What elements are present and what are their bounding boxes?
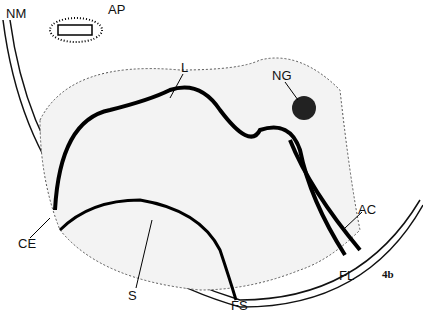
- label-ap: AP: [108, 2, 125, 17]
- label-ng: NG: [272, 68, 292, 83]
- label-l: L: [181, 60, 188, 75]
- figure-number: 4b: [382, 268, 394, 280]
- label-ac: AC: [358, 202, 376, 217]
- label-nm: NM: [6, 6, 26, 21]
- diagram-canvas: NM AP L NG AC CE S FL FS 4b: [0, 0, 423, 317]
- tissue-drawing: [0, 0, 423, 317]
- label-fs: FS: [231, 298, 248, 313]
- label-ce: CE: [18, 236, 36, 251]
- label-s: S: [128, 288, 137, 303]
- label-fl: FL: [339, 268, 354, 283]
